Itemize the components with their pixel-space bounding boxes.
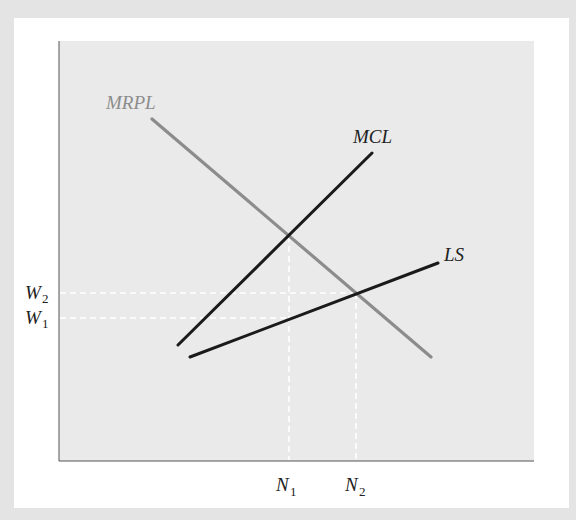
labor-market-chart: MRPL MCL LS W 2 W 1 N 1 N 2 bbox=[0, 0, 576, 520]
svg-text:W: W bbox=[25, 307, 43, 328]
svg-text:1: 1 bbox=[42, 316, 49, 331]
x-tick-n2: N 2 bbox=[344, 474, 366, 499]
svg-text:2: 2 bbox=[359, 484, 366, 499]
svg-text:N: N bbox=[344, 474, 359, 495]
svg-text:2: 2 bbox=[42, 291, 49, 306]
mcl-label: MCL bbox=[352, 126, 392, 147]
mrpl-label: MRPL bbox=[105, 92, 156, 113]
y-tick-w1: W 1 bbox=[25, 307, 49, 331]
x-tick-n1: N 1 bbox=[275, 474, 297, 499]
ls-label: LS bbox=[443, 244, 465, 265]
svg-text:1: 1 bbox=[290, 484, 297, 499]
svg-text:N: N bbox=[275, 474, 290, 495]
svg-text:W: W bbox=[25, 282, 43, 303]
y-tick-w2: W 2 bbox=[25, 282, 49, 306]
